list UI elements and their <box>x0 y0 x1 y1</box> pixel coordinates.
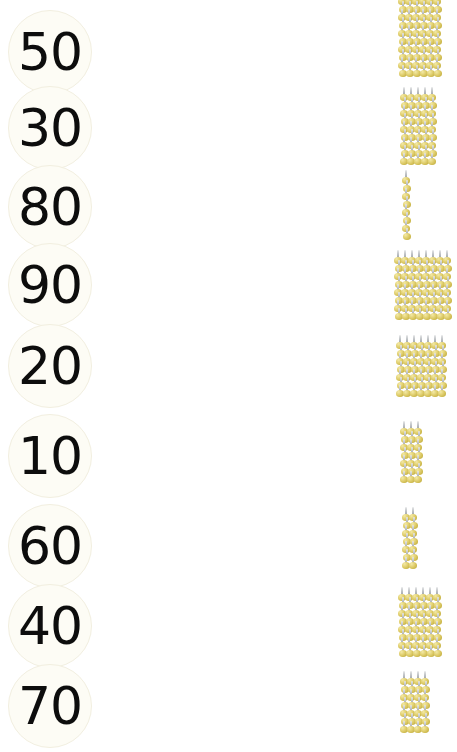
pin-item <box>434 68 443 77</box>
pin-item <box>409 560 418 569</box>
number-label: 60 <box>18 520 82 572</box>
number-label: 90 <box>18 259 82 311</box>
pin-bundle-6[interactable] <box>400 426 421 482</box>
worksheet-canvas: 503080902010604070 <box>0 0 457 752</box>
pin-bundle-1[interactable] <box>398 0 440 76</box>
pin-item <box>403 231 412 240</box>
number-token-90[interactable]: 90 <box>6 241 94 329</box>
number-token-column: 503080902010604070 <box>0 0 110 752</box>
number-token-70[interactable]: 70 <box>6 662 94 750</box>
pin-bundle-9[interactable] <box>400 676 428 732</box>
number-label: 20 <box>18 340 82 392</box>
pin-bundle-5[interactable] <box>396 340 445 396</box>
number-token-60[interactable]: 60 <box>6 502 94 590</box>
number-label: 80 <box>18 181 82 233</box>
number-label: 50 <box>18 26 82 78</box>
pin-bundle-2[interactable] <box>400 92 435 164</box>
pin-item <box>444 311 453 320</box>
number-token-40[interactable]: 40 <box>6 582 94 670</box>
pin-bundle-7[interactable] <box>402 512 416 568</box>
pin-bundle-8[interactable] <box>398 592 440 656</box>
number-label: 30 <box>18 102 82 154</box>
pin-item <box>421 724 430 733</box>
pin-cluster-column <box>330 0 457 752</box>
pin-bundle-4[interactable] <box>394 255 450 319</box>
number-token-80[interactable]: 80 <box>6 163 94 251</box>
number-token-20[interactable]: 20 <box>6 322 94 410</box>
pin-item <box>438 388 447 397</box>
number-token-10[interactable]: 10 <box>6 412 94 500</box>
pin-item <box>428 156 437 165</box>
number-label: 70 <box>18 680 82 732</box>
number-token-30[interactable]: 30 <box>6 84 94 172</box>
pin-item <box>414 474 423 483</box>
pin-bundle-3[interactable] <box>402 175 409 239</box>
number-label: 10 <box>18 430 82 482</box>
number-label: 40 <box>18 600 82 652</box>
number-token-50[interactable]: 50 <box>6 8 94 96</box>
pin-item <box>434 648 443 657</box>
